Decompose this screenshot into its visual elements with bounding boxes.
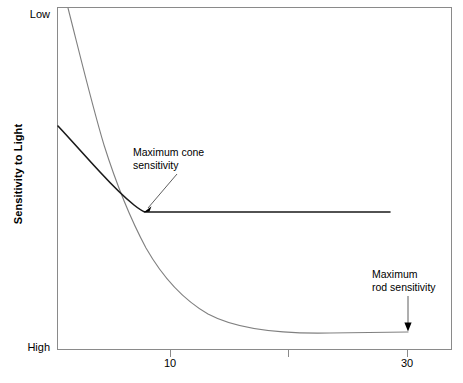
chart-plot-area [0,0,463,383]
rod-curve [68,8,408,333]
annotation-maximum-rod-sensitivity: Maximum rod sensitivity [372,268,436,294]
x-axis-ticks [171,350,408,357]
x-axis-tick-label-10: 10 [150,357,190,369]
y-axis-label-high: High [2,341,50,353]
x-axis-tick-label-30: 30 [387,357,427,369]
plot-frame [58,8,452,350]
y-axis-title: Sensitivity to Light [12,104,24,244]
annotation-maximum-cone-sensitivity: Maximum cone sensitivity [133,146,204,172]
y-axis-label-low: Low [2,8,50,20]
cone-annotation-arrow [144,174,178,213]
rod-annotation-arrow [404,296,411,332]
chart-figure: Sensitivity to Light Low High 10 30 Maxi… [0,0,463,383]
cone-curve [58,126,390,212]
